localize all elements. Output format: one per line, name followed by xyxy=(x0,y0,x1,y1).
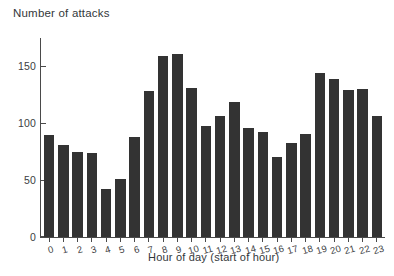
x-axis-tick xyxy=(205,238,206,242)
x-axis-tick xyxy=(376,238,377,242)
x-axis-tick xyxy=(277,238,278,242)
x-axis-tick xyxy=(220,238,221,242)
bar xyxy=(72,152,83,237)
x-axis-tick-label: 23 xyxy=(369,242,387,257)
bar xyxy=(44,135,55,237)
bar xyxy=(229,102,240,237)
y-axis-tick-label: 100 xyxy=(12,117,36,129)
x-axis-tick xyxy=(234,238,235,242)
bar xyxy=(286,143,297,237)
y-axis-title: Number of attacks xyxy=(13,7,110,19)
bar xyxy=(58,145,69,237)
x-axis-tick xyxy=(334,238,335,242)
y-axis-line xyxy=(40,38,41,238)
x-axis-tick xyxy=(163,238,164,242)
bar xyxy=(300,134,311,237)
bar xyxy=(87,153,98,237)
x-axis-tick xyxy=(348,238,349,242)
bar xyxy=(129,137,140,237)
x-axis-tick xyxy=(191,238,192,242)
x-axis-title: Hour of day (start of hour) xyxy=(148,251,279,263)
x-axis-tick xyxy=(291,238,292,242)
x-axis-tick xyxy=(134,238,135,242)
bar xyxy=(343,90,354,237)
bar xyxy=(186,88,197,237)
bar xyxy=(144,91,155,237)
x-axis-tick xyxy=(49,238,50,242)
y-axis-tick-label: 50 xyxy=(12,174,36,186)
x-axis-tick xyxy=(177,238,178,242)
bar xyxy=(172,54,183,237)
bar xyxy=(372,116,383,237)
x-axis-tick xyxy=(262,238,263,242)
x-axis-tick xyxy=(148,238,149,242)
y-axis-tick xyxy=(41,123,46,124)
bar xyxy=(258,132,269,237)
bar xyxy=(329,79,340,237)
bar xyxy=(243,128,254,237)
y-axis-tick-label: 150 xyxy=(12,60,36,72)
bar xyxy=(215,116,226,237)
bar xyxy=(357,89,368,237)
y-axis-tick-label: 0 xyxy=(12,231,36,243)
x-axis-tick xyxy=(91,238,92,242)
bar xyxy=(101,189,112,237)
bar-chart: Number of attacks 050100150 012345678910… xyxy=(0,0,394,276)
bar xyxy=(115,179,126,237)
x-axis-tick xyxy=(63,238,64,242)
y-axis-tick xyxy=(41,66,46,67)
x-axis-tick xyxy=(77,238,78,242)
x-axis-tick xyxy=(319,238,320,242)
bar xyxy=(158,56,169,237)
x-axis-tick xyxy=(362,238,363,242)
x-axis-tick xyxy=(120,238,121,242)
bar xyxy=(201,126,212,237)
x-axis-tick xyxy=(106,238,107,242)
x-axis-tick xyxy=(248,238,249,242)
bar xyxy=(272,157,283,237)
bar xyxy=(315,73,326,237)
x-axis-tick xyxy=(305,238,306,242)
